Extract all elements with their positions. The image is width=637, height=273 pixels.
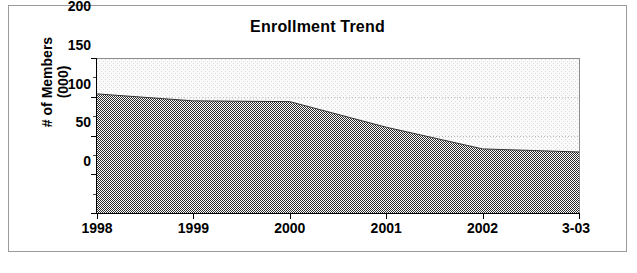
y-tick-label-200: 200 <box>47 0 91 14</box>
area-chart-svg <box>97 59 579 214</box>
x-tick-mark-1998 <box>97 214 98 219</box>
y-tick-label-50: 50 <box>47 114 91 130</box>
y-axis-line <box>96 58 97 214</box>
y-tick-label-150: 150 <box>47 37 91 53</box>
x-tick-mark-2000 <box>290 214 291 219</box>
x-tick-mark-1999 <box>193 214 194 219</box>
chart-title: Enrollment Trend <box>9 18 626 36</box>
x-tick-label-2000: 2000 <box>274 220 305 236</box>
y-tick-label-100: 100 <box>47 76 91 92</box>
y-tick-label-0: 0 <box>47 153 91 169</box>
chart-frame: Enrollment Trend # of Members (000) 0 50… <box>8 5 627 252</box>
x-axis-tick-labels: 1998 1999 2000 2001 2002 3-03 <box>9 220 626 242</box>
x-axis-line <box>96 213 580 214</box>
plot-area <box>97 58 580 214</box>
x-tick-mark-2002 <box>483 214 484 219</box>
x-tick-label-2002: 2002 <box>467 220 498 236</box>
x-tick-label-1998: 1998 <box>81 220 112 236</box>
x-tick-label-3-03: 3-03 <box>562 220 590 236</box>
x-tick-mark-3-03 <box>579 214 580 219</box>
x-tick-label-2001: 2001 <box>371 220 402 236</box>
x-tick-mark-2001 <box>386 214 387 219</box>
x-tick-label-1999: 1999 <box>178 220 209 236</box>
y-axis-tick-labels: 0 50 100 150 200 <box>43 6 91 251</box>
